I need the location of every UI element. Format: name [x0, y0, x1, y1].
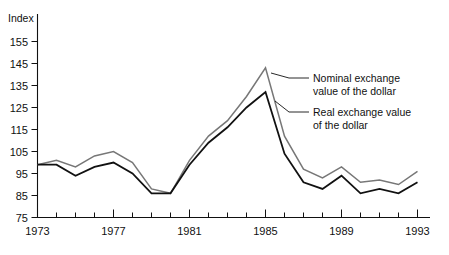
leader-line-nominal-hook — [271, 73, 289, 78]
y-tick-label: 145 — [10, 58, 28, 70]
x-tick-label: 1973 — [25, 225, 49, 237]
y-tick-label: 95 — [16, 168, 28, 180]
y-axis-title: Index — [8, 12, 34, 24]
y-tick-label: 125 — [10, 102, 28, 114]
x-tick-label: 1981 — [177, 225, 201, 237]
x-tick-label: 1989 — [329, 225, 353, 237]
y-tick-label: 115 — [10, 124, 28, 136]
exchange-rate-line-chart: Index 758595105115125135145155 197319771… — [0, 0, 449, 255]
y-tick-label: 155 — [10, 36, 28, 48]
y-axis-tick-labels: 758595105115125135145155 — [10, 36, 28, 224]
x-axis-minor-ticks — [38, 213, 418, 218]
x-tick-label: 1977 — [101, 225, 125, 237]
x-axis-tick-labels: 197319771981198519891993 — [25, 225, 429, 237]
y-tick-label: 75 — [16, 212, 28, 224]
annotation-real-line1: Real exchange value — [313, 106, 411, 118]
chart-canvas: Index 758595105115125135145155 197319771… — [0, 0, 449, 255]
annotation-nominal-line2: value of the dollar — [313, 85, 396, 97]
annotation-nominal-line1: Nominal exchange — [313, 72, 400, 84]
y-tick-label: 105 — [10, 146, 28, 158]
annotation-real-line2: of the dollar — [313, 119, 368, 131]
y-tick-label: 135 — [10, 80, 28, 92]
x-tick-label: 1993 — [405, 225, 429, 237]
x-tick-label: 1985 — [253, 225, 277, 237]
y-tick-label: 85 — [16, 190, 28, 202]
y-axis-ticks — [32, 42, 38, 218]
